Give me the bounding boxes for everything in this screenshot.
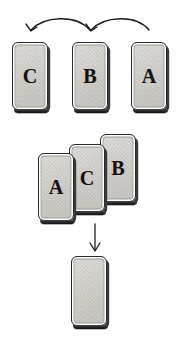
card-label: B — [83, 66, 96, 86]
diagram-canvas: C B A A C B — [0, 0, 177, 341]
result-card[interactable] — [71, 256, 107, 326]
card-label: C — [23, 66, 37, 86]
top-card-c[interactable]: C — [12, 42, 48, 110]
arrow-b-to-c-icon — [26, 19, 90, 31]
arrow-down-icon — [90, 224, 100, 251]
arrow-a-to-b-curve — [91, 19, 149, 30]
card-label: A — [49, 177, 63, 197]
stack-card-a[interactable]: A — [38, 153, 74, 221]
stack-card-c[interactable]: C — [69, 144, 105, 212]
arrow-a-to-b-icon — [86, 19, 149, 31]
arrow-b-to-c-curve — [31, 19, 90, 30]
card-label: A — [142, 66, 156, 86]
card-label: B — [111, 158, 124, 178]
arrow-down-head — [90, 243, 100, 251]
arrow-a-to-b-head — [86, 24, 97, 31]
stack-card-b[interactable]: B — [100, 134, 136, 202]
arrow-b-to-c-head — [26, 24, 37, 31]
top-card-b[interactable]: B — [72, 42, 108, 110]
card-label: C — [80, 168, 94, 188]
top-card-a[interactable]: A — [131, 42, 167, 110]
